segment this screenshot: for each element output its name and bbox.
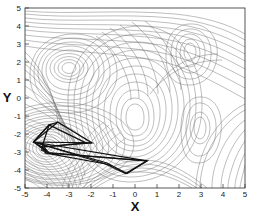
- y-tick-label: 3: [17, 40, 22, 49]
- x-tick-labels: -5 -4 -3 -2 -1 0 1 2 3 4 5: [21, 190, 247, 199]
- x-tick-label: 1: [155, 190, 160, 199]
- x-tick-label: 4: [221, 190, 226, 199]
- x-tick-label: -2: [87, 190, 95, 199]
- contour-plot-figure: -5 -4 -3 -2 -1 0 1 2 3 4 5 5 4 3 2 1 0 -…: [0, 0, 263, 217]
- y-axis-title: Y: [3, 90, 12, 105]
- y-tick-labels: 5 4 3 2 1 0 -1 -2 -3 -4 -5: [14, 4, 22, 193]
- x-tick-label: -1: [109, 190, 117, 199]
- x-tick-label: 3: [199, 190, 204, 199]
- y-tick-label: 1: [17, 76, 22, 85]
- x-tick-label: -4: [43, 190, 51, 199]
- y-tick-label: 0: [17, 94, 22, 103]
- x-tick-label: 5: [243, 190, 248, 199]
- y-tick-label: -3: [14, 148, 22, 157]
- x-tick-label: -3: [65, 190, 73, 199]
- x-tick-label: 0: [133, 190, 138, 199]
- y-tick-label: -4: [14, 166, 22, 175]
- x-tick-label: 2: [177, 190, 182, 199]
- y-tick-label: 4: [17, 22, 22, 31]
- plot-canvas: -5 -4 -3 -2 -1 0 1 2 3 4 5 5 4 3 2 1 0 -…: [0, 0, 263, 217]
- x-axis-title: X: [131, 199, 140, 214]
- y-tick-label: -1: [14, 112, 22, 121]
- y-tick-label: 2: [17, 58, 22, 67]
- y-tick-label: -5: [14, 184, 22, 193]
- x-tick-label: -5: [21, 190, 29, 199]
- y-tick-label: -2: [14, 130, 22, 139]
- y-tick-label: 5: [17, 4, 22, 13]
